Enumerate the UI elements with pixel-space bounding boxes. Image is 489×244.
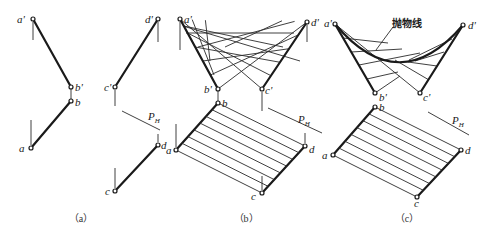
label-d-prime: d': [311, 16, 320, 28]
caption-b: （b）: [234, 213, 259, 224]
label-a: a: [322, 149, 328, 161]
label-plane: PH: [297, 113, 311, 128]
panel-b: a' d' b' c' b a d c PH （b）: [166, 13, 322, 224]
label-a-prime: a': [184, 13, 193, 25]
label-c-prime: c': [104, 81, 112, 93]
label-c: c: [251, 190, 256, 202]
point-b-prime: [216, 87, 220, 91]
point-c-prime: [260, 87, 264, 91]
label-d: d: [309, 143, 315, 155]
label-a-prime: a': [17, 13, 26, 25]
caption-a: （a）: [69, 213, 93, 224]
point-a: [331, 153, 335, 157]
label-d-prime: d': [145, 13, 154, 25]
label-c: c: [414, 197, 419, 209]
label-c: c: [105, 185, 110, 197]
label-b-prime: b': [204, 83, 213, 95]
point-c: [260, 191, 264, 195]
label-a: a: [166, 144, 172, 156]
hyperbolic-paraboloid-diagram: a' b' b a c' d' c d PH （a）: [0, 0, 489, 244]
caption-c: （c）: [395, 213, 419, 224]
label-plane: PH: [147, 110, 161, 125]
annotation-parabola: 抛物线: [392, 17, 422, 29]
line-a-prime-b-prime: [335, 24, 375, 93]
point-b: [373, 105, 377, 109]
label-d-prime: d': [468, 19, 477, 31]
point-d: [156, 143, 160, 147]
ruling-lines-top: [333, 107, 461, 197]
point-a: [29, 146, 33, 150]
point-c-prime: [113, 85, 117, 89]
point-d-prime: [305, 20, 309, 24]
point-d-prime: [156, 17, 160, 21]
point-b: [69, 99, 73, 103]
point-c-prime: [418, 91, 422, 95]
line-a-b: [31, 101, 71, 148]
label-c-prime: c': [265, 84, 273, 96]
point-d: [303, 144, 307, 148]
point-c: [113, 189, 117, 193]
point-b-prime: [69, 85, 73, 89]
point-b-prime: [373, 91, 377, 95]
line-c-d: [115, 145, 158, 191]
plane-ph-trace: [268, 108, 322, 133]
point-a-prime: [178, 17, 182, 21]
ruling-lines-front: [335, 24, 452, 93]
label-d: d: [465, 144, 471, 156]
point-b: [216, 101, 220, 105]
line-a-prime-b-prime: [33, 19, 71, 87]
point-d-prime: [461, 23, 465, 27]
line-d-prime-c-prime: [420, 25, 463, 93]
label-b: b: [75, 96, 81, 108]
line-d-prime-c-prime: [262, 22, 307, 89]
label-c-prime: c': [423, 91, 431, 103]
label-b: b: [379, 101, 385, 113]
label-plane: PH: [451, 114, 465, 129]
annotation-leader: [376, 27, 393, 50]
point-a-prime: [31, 17, 35, 21]
line-c-prime-d-prime: [115, 19, 158, 87]
point-d: [459, 148, 463, 152]
label-b-prime: b': [75, 81, 84, 93]
point-a-prime: [333, 22, 337, 26]
line-d-c: [262, 146, 305, 193]
panel-a: a' b' b a c' d' c d PH （a）: [17, 13, 167, 224]
point-a: [174, 148, 178, 152]
label-b: b: [222, 97, 228, 109]
label-a: a: [19, 142, 25, 154]
label-a-prime: a': [324, 17, 333, 29]
panel-c: 抛物线 a' d' b' c' b a d: [322, 17, 477, 224]
